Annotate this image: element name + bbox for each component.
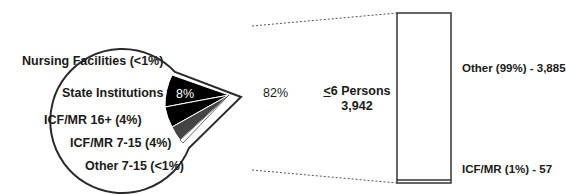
label-state-pct: 8% — [176, 87, 194, 101]
label-icf-mr-16plus: ICF/MR 16+ (4%) — [44, 113, 142, 127]
label-other-7-15: Other 7-15 (<1%) — [85, 159, 184, 173]
label-icf-mr-7-15: ICF/MR 7-15 (4%) — [70, 136, 171, 150]
label-nursing-facilities: Nursing Facilities (<1%) — [22, 54, 163, 68]
label-le6-persons: <6 Persons — [322, 84, 392, 98]
connector-bottom — [252, 170, 397, 183]
breakdown-bar — [397, 13, 451, 183]
label-state-institutions: State Institutions — [62, 86, 163, 100]
label-bar-other: Other (99%) - 3,885 — [462, 62, 566, 74]
connector-top — [252, 13, 397, 26]
label-main-pct: 82% — [263, 86, 288, 100]
label-bar-icf: ICF/MR (1%) - 57 — [462, 163, 552, 175]
label-le6-count: 3,942 — [322, 99, 392, 113]
